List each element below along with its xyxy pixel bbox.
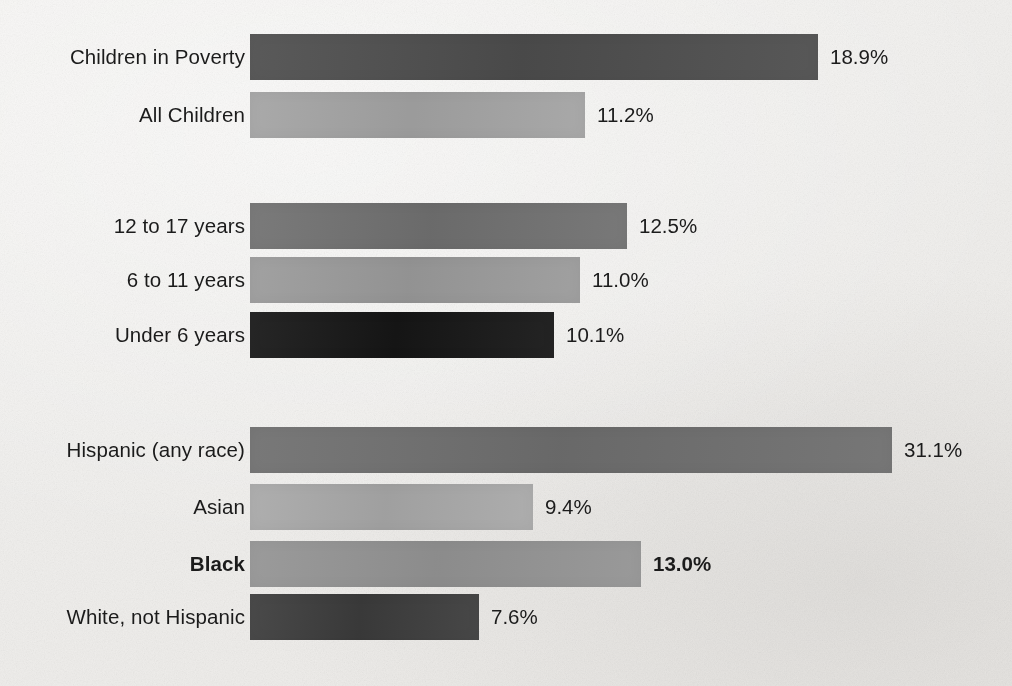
chart-row: White, not Hispanic7.6% — [0, 594, 1012, 640]
bar-value-label: 11.0% — [592, 257, 649, 303]
bar — [250, 203, 627, 249]
chart-row: 12 to 17 years12.5% — [0, 203, 1012, 249]
category-label: Asian — [0, 484, 245, 530]
bar-value-label: 31.1% — [904, 427, 962, 473]
bar-value-label: 13.0% — [653, 541, 711, 587]
chart-row: Asian9.4% — [0, 484, 1012, 530]
bar-value-label: 12.5% — [639, 203, 697, 249]
chart-row: Hispanic (any race)31.1% — [0, 427, 1012, 473]
chart-row: Black13.0% — [0, 541, 1012, 587]
chart-row: Children in Poverty18.9% — [0, 34, 1012, 80]
bar — [250, 484, 533, 530]
category-label: 12 to 17 years — [0, 203, 245, 249]
category-label: All Children — [0, 92, 245, 138]
bar — [250, 427, 892, 473]
bar-value-label: 7.6% — [491, 594, 538, 640]
category-label: White, not Hispanic — [0, 594, 245, 640]
bar-value-label: 18.9% — [830, 34, 888, 80]
bar-value-label: 10.1% — [566, 312, 624, 358]
chart-row: 6 to 11 years11.0% — [0, 257, 1012, 303]
bar — [250, 92, 585, 138]
category-label: Children in Poverty — [0, 34, 245, 80]
bar — [250, 312, 554, 358]
category-label: 6 to 11 years — [0, 257, 245, 303]
bar-chart: Children in Poverty18.9%All Children11.2… — [0, 0, 1012, 686]
chart-row: All Children11.2% — [0, 92, 1012, 138]
bar — [250, 594, 479, 640]
category-label: Hispanic (any race) — [0, 427, 245, 473]
bar-value-label: 11.2% — [597, 92, 654, 138]
bar — [250, 257, 580, 303]
category-label: Black — [0, 541, 245, 587]
bar — [250, 34, 818, 80]
bar — [250, 541, 641, 587]
bar-value-label: 9.4% — [545, 484, 592, 530]
category-label: Under 6 years — [0, 312, 245, 358]
chart-row: Under 6 years10.1% — [0, 312, 1012, 358]
